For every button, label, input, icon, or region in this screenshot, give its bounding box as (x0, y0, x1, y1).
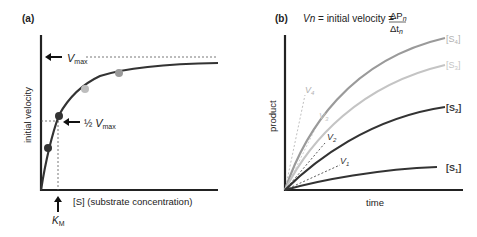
formula: Vn = initial velocity = ΔPn Δtn (303, 10, 407, 35)
panel-b: (b) Vn = initial velocity = ΔPn Δtn V4 V… (267, 10, 463, 208)
v2-label: V2 (327, 132, 337, 143)
km-arrow-icon (54, 196, 62, 202)
panel-b-label: (b) (275, 13, 288, 24)
data-point (81, 85, 89, 93)
tangent-v4 (285, 95, 305, 190)
v3-label: V3 (319, 111, 329, 122)
data-point (115, 69, 123, 77)
v4-label: V4 (305, 85, 315, 96)
michaelis-menten-curve (41, 63, 218, 190)
half-vmax-label: ½ Vmax (84, 117, 116, 130)
data-point (55, 112, 63, 120)
vmax-arrow-icon (45, 53, 51, 61)
v1-label: V1 (340, 156, 349, 167)
svg-text:Δtn: Δtn (390, 23, 403, 35)
panel-a-label: (a) (22, 13, 34, 24)
panel-a: (a) Vmax ½ Vmax KM initial velocity [S] … (22, 13, 218, 227)
s1-label: [S1] (446, 163, 461, 174)
s2-label: [S2] (446, 103, 461, 114)
data-point (44, 144, 52, 152)
curve-s3 (285, 65, 445, 190)
s3-label: [S3] (446, 60, 460, 71)
half-vmax-arrow-icon (63, 118, 69, 126)
svg-text:Vn = initial velocity =: Vn = initial velocity = (303, 13, 394, 24)
y-axis-label: initial velocity (22, 87, 33, 143)
km-label: KM (52, 215, 65, 227)
figure: (a) Vmax ½ Vmax KM initial velocity [S] … (0, 0, 477, 237)
s4-label: [S4] (446, 34, 460, 45)
vmax-label: Vmax (67, 52, 88, 65)
svg-text:ΔPn: ΔPn (390, 10, 407, 22)
y-axis-label: product (267, 100, 278, 132)
x-axis-label: time (366, 197, 384, 208)
x-axis-label: [S] (substrate concentration) (73, 196, 192, 207)
curve-s2 (285, 107, 445, 190)
